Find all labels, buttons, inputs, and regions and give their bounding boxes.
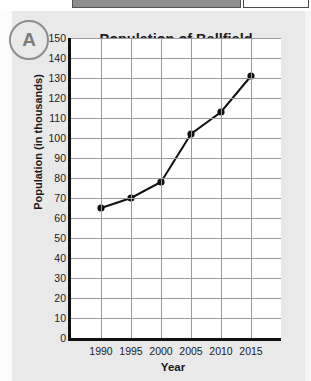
gridline-vertical bbox=[221, 38, 222, 338]
x-tick-label: 2000 bbox=[149, 345, 172, 357]
y-tick-label: 30 bbox=[36, 272, 66, 284]
gridline-horizontal bbox=[71, 218, 281, 219]
gridline-horizontal bbox=[71, 58, 281, 59]
gridline-vertical bbox=[101, 38, 102, 338]
y-tick-label: 60 bbox=[36, 212, 66, 224]
series-line bbox=[101, 76, 251, 208]
y-tick-label: 50 bbox=[36, 232, 66, 244]
gridline-vertical bbox=[161, 38, 162, 338]
cutoff-top-strip bbox=[0, 0, 311, 11]
y-tick-label: 0 bbox=[36, 332, 66, 344]
gridline-vertical bbox=[131, 38, 132, 338]
gridline-horizontal bbox=[71, 278, 281, 279]
gridline-horizontal bbox=[71, 138, 281, 139]
y-tick-label: 120 bbox=[36, 92, 66, 104]
y-tick-label: 130 bbox=[36, 72, 66, 84]
gridline-horizontal bbox=[71, 78, 281, 79]
y-tick-label: 90 bbox=[36, 152, 66, 164]
gridline-horizontal bbox=[71, 198, 281, 199]
gridline-horizontal bbox=[71, 118, 281, 119]
y-tick-label: 110 bbox=[36, 112, 66, 124]
page-edge-left bbox=[0, 11, 12, 381]
gridline-horizontal bbox=[71, 258, 281, 259]
gridline-horizontal bbox=[71, 238, 281, 239]
gridline-vertical bbox=[251, 38, 252, 338]
y-tick-label: 40 bbox=[36, 252, 66, 264]
gridline-horizontal bbox=[71, 318, 281, 319]
gray-bar-cutoff bbox=[72, 0, 241, 8]
x-axis-label: Year bbox=[68, 361, 278, 373]
worksheet-page: A Population of Bellfield Population (in… bbox=[0, 11, 311, 381]
x-tick-label: 2010 bbox=[209, 345, 232, 357]
y-tick-label: 150 bbox=[36, 32, 66, 44]
gridline-horizontal bbox=[71, 38, 281, 39]
white-box-cutoff bbox=[243, 0, 309, 8]
y-tick-label: 70 bbox=[36, 192, 66, 204]
x-tick-label: 2005 bbox=[179, 345, 202, 357]
y-tick-label: 20 bbox=[36, 292, 66, 304]
gridline-vertical bbox=[191, 38, 192, 338]
x-tick-label: 1995 bbox=[119, 345, 142, 357]
y-tick-label: 10 bbox=[36, 312, 66, 324]
gridline-horizontal bbox=[71, 178, 281, 179]
x-tick-label: 1990 bbox=[89, 345, 112, 357]
page-edge-right bbox=[305, 11, 311, 381]
gridline-horizontal bbox=[71, 158, 281, 159]
y-tick-label: 100 bbox=[36, 132, 66, 144]
gridline-horizontal bbox=[71, 98, 281, 99]
chart-grid: 0102030405060708090100110120130140150199… bbox=[71, 38, 281, 338]
line-series bbox=[71, 38, 281, 338]
y-tick-label: 80 bbox=[36, 172, 66, 184]
gridline-horizontal bbox=[71, 298, 281, 299]
y-tick-label: 140 bbox=[36, 52, 66, 64]
chart-plot-area: 0102030405060708090100110120130140150199… bbox=[68, 38, 281, 341]
x-tick-label: 2015 bbox=[239, 345, 262, 357]
